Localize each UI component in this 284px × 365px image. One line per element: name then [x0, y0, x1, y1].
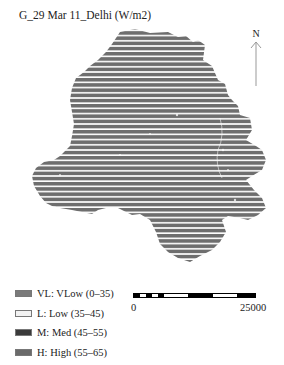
scale-start-label: 0 [131, 302, 136, 313]
north-arrow-icon [246, 40, 266, 88]
legend-label-low: L: Low (35–45) [37, 308, 104, 319]
legend-swatch-vlow [15, 290, 32, 297]
legend-item-low: L: Low (35–45) [15, 304, 114, 324]
legend-label-vlow: VL: VLow (0–35) [37, 288, 114, 299]
legend-item-high: H: High (55–65) [15, 343, 114, 363]
north-arrow: N [246, 28, 266, 88]
north-label: N [246, 28, 266, 39]
legend-swatch-med [15, 329, 32, 336]
legend: VL: VLow (0–35) L: Low (35–45) M: Med (4… [15, 284, 114, 362]
legend-item-vlow: VL: VLow (0–35) [15, 284, 114, 304]
scale-end-label: 25000 [240, 302, 266, 313]
delhi-map [0, 0, 284, 280]
legend-label-high: H: High (55–65) [37, 347, 107, 358]
legend-item-med: M: Med (45–55) [15, 323, 114, 343]
scale-bar [133, 293, 256, 298]
legend-swatch-high [15, 349, 32, 356]
legend-label-med: M: Med (45–55) [37, 327, 107, 338]
legend-swatch-low [15, 310, 32, 317]
